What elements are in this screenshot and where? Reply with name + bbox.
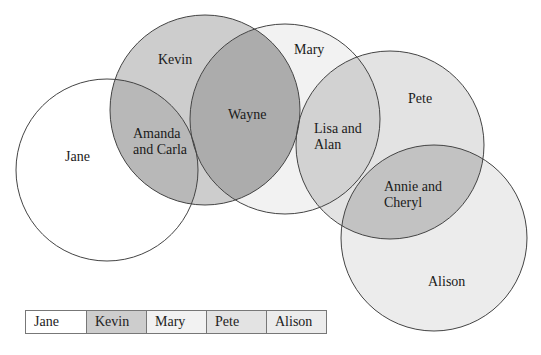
label-amanda-line2: and Carla xyxy=(133,142,188,157)
legend-item-kevin: Kevin xyxy=(86,311,146,333)
label-lisa-line2: Alan xyxy=(314,137,341,152)
legend-item-jane: Jane xyxy=(26,311,86,333)
label-wayne: Wayne xyxy=(228,107,267,122)
label-pete: Pete xyxy=(408,91,432,106)
legend: Jane Kevin Mary Pete Alison xyxy=(25,310,327,334)
legend-item-pete: Pete xyxy=(206,311,266,333)
label-kevin: Kevin xyxy=(158,52,192,67)
label-annie-line2: Cheryl xyxy=(384,195,422,210)
label-mary: Mary xyxy=(294,42,324,57)
label-annie-line1: Annie and xyxy=(384,179,442,194)
label-alison: Alison xyxy=(428,274,465,289)
legend-item-mary: Mary xyxy=(146,311,206,333)
venn-diagram: Kevin Mary Pete Jane Wayne Amanda and Ca… xyxy=(0,0,541,355)
label-lisa-line1: Lisa and xyxy=(314,121,362,136)
legend-item-alison: Alison xyxy=(266,311,326,333)
label-amanda-line1: Amanda xyxy=(133,126,181,141)
label-jane: Jane xyxy=(65,149,90,164)
